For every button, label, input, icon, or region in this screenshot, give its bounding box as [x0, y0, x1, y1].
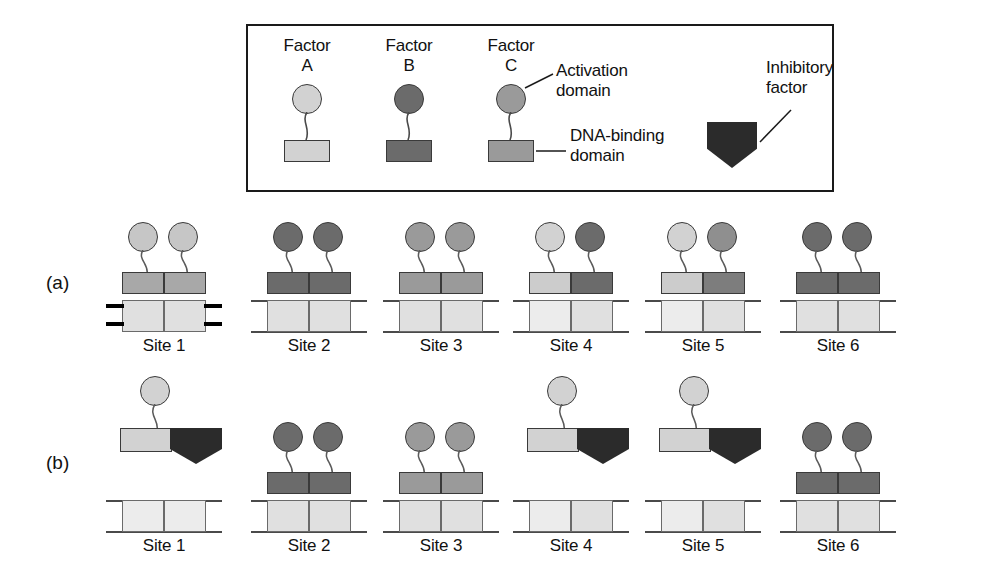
dna-binding-domain-icon	[796, 272, 838, 294]
activation-domain-icon	[842, 422, 872, 452]
dna-duplex	[780, 498, 896, 534]
site-label: Site 1	[106, 336, 222, 356]
activation-domain-icon	[575, 222, 605, 252]
panel-b-label: (b)	[46, 452, 69, 474]
activation-domain-icon	[547, 376, 577, 406]
panel-a-site-3: Site 3	[383, 222, 499, 344]
dna-strand-bold	[106, 304, 124, 308]
dna-binding-domain-icon	[838, 272, 880, 294]
panel-b-site-3: Site 3	[383, 422, 499, 544]
dna-site-half	[661, 300, 703, 332]
site-label: Site 3	[383, 336, 499, 356]
dna-site-half	[441, 500, 483, 532]
panel-b-site-1: Site 1	[106, 376, 222, 544]
activation-domain-icon	[405, 222, 435, 252]
activation-domain-icon	[535, 222, 565, 252]
dna-site-half	[164, 300, 206, 332]
site-label: Site 4	[513, 536, 629, 556]
activation-domain-icon	[405, 422, 435, 452]
legend-activation-domain-label: Activation domain	[556, 61, 628, 101]
activation-domain-icon	[679, 376, 709, 406]
panel-a-site-6: Site 6	[780, 222, 896, 344]
dna-site-half	[399, 500, 441, 532]
site-label: Site 3	[383, 536, 499, 556]
site-label: Site 2	[251, 536, 367, 556]
dna-site-half	[703, 500, 745, 532]
dna-site-half	[838, 500, 880, 532]
dna-binding-domain-icon	[267, 472, 309, 494]
dna-strand-bold	[204, 304, 222, 308]
dna-site-half	[309, 300, 351, 332]
activation-domain-icon	[802, 422, 832, 452]
dna-strand-bold	[106, 322, 124, 326]
legend-box: Factor A Factor B Factor C Activation do…	[246, 24, 834, 192]
dna-duplex	[251, 498, 367, 534]
panel-a-site-5: Site 5	[645, 222, 761, 344]
dna-binding-domain-icon	[267, 272, 309, 294]
panel-b-site-4: Site 4	[513, 376, 629, 544]
site-label: Site 1	[106, 536, 222, 556]
site-label: Site 5	[645, 336, 761, 356]
dna-binding-domain-icon	[529, 272, 571, 294]
dna-strand-bold	[204, 322, 222, 326]
dna-site-half	[796, 300, 838, 332]
dna-site-half	[441, 300, 483, 332]
dna-site-half	[571, 500, 613, 532]
activation-domain-icon	[667, 222, 697, 252]
dna-site-half	[796, 500, 838, 532]
legend-leader-lines	[248, 26, 836, 194]
dna-binding-domain-icon	[703, 272, 745, 294]
dna-duplex	[513, 498, 629, 534]
dna-binding-domain-icon	[527, 428, 579, 452]
dna-site-half	[164, 500, 206, 532]
dna-binding-domain-icon	[120, 428, 172, 452]
panel-a-label: (a)	[46, 272, 69, 294]
legend-dna-binding-domain-label: DNA-binding domain	[570, 126, 664, 166]
site-label: Site 2	[251, 336, 367, 356]
activation-domain-icon	[273, 422, 303, 452]
dna-site-half	[267, 300, 309, 332]
dna-binding-domain-icon	[838, 472, 880, 494]
inhibitory-factor-icon	[170, 428, 222, 464]
activation-domain-icon	[273, 222, 303, 252]
site-label: Site 6	[780, 536, 896, 556]
dna-site-half	[571, 300, 613, 332]
dna-duplex	[645, 298, 761, 334]
dna-duplex	[513, 298, 629, 334]
activation-domain-icon	[842, 222, 872, 252]
dna-binding-domain-icon	[399, 472, 441, 494]
dna-site-half	[661, 500, 703, 532]
dna-binding-domain-icon	[659, 428, 711, 452]
dna-site-half	[399, 300, 441, 332]
panel-b-site-2: Site 2	[251, 422, 367, 544]
dna-site-half	[529, 500, 571, 532]
dna-binding-domain-icon	[309, 472, 351, 494]
dna-binding-domain-icon	[571, 272, 613, 294]
panel-a-site-1: Site 1	[106, 222, 222, 344]
dna-duplex	[780, 298, 896, 334]
dna-site-half	[309, 500, 351, 532]
dna-site-half	[838, 300, 880, 332]
dna-site-half	[122, 500, 164, 532]
inhibitory-factor-icon	[709, 428, 761, 464]
panel-a-site-2: Site 2	[251, 222, 367, 344]
dna-binding-domain-icon	[441, 272, 483, 294]
dna-duplex	[383, 298, 499, 334]
dna-duplex	[645, 498, 761, 534]
dna-binding-domain-icon	[661, 272, 703, 294]
dna-duplex	[106, 298, 222, 334]
dna-duplex	[251, 298, 367, 334]
dna-site-half	[703, 300, 745, 332]
activation-domain-icon	[140, 376, 170, 406]
dna-binding-domain-icon	[441, 472, 483, 494]
inhibitory-factor-icon	[577, 428, 629, 464]
activation-domain-icon	[313, 422, 343, 452]
dna-binding-domain-icon	[399, 272, 441, 294]
dna-binding-domain-icon	[309, 272, 351, 294]
dna-binding-domain-icon	[796, 472, 838, 494]
dna-site-half	[529, 300, 571, 332]
activation-domain-icon	[168, 222, 198, 252]
activation-domain-icon	[313, 222, 343, 252]
dna-duplex	[383, 498, 499, 534]
site-label: Site 5	[645, 536, 761, 556]
